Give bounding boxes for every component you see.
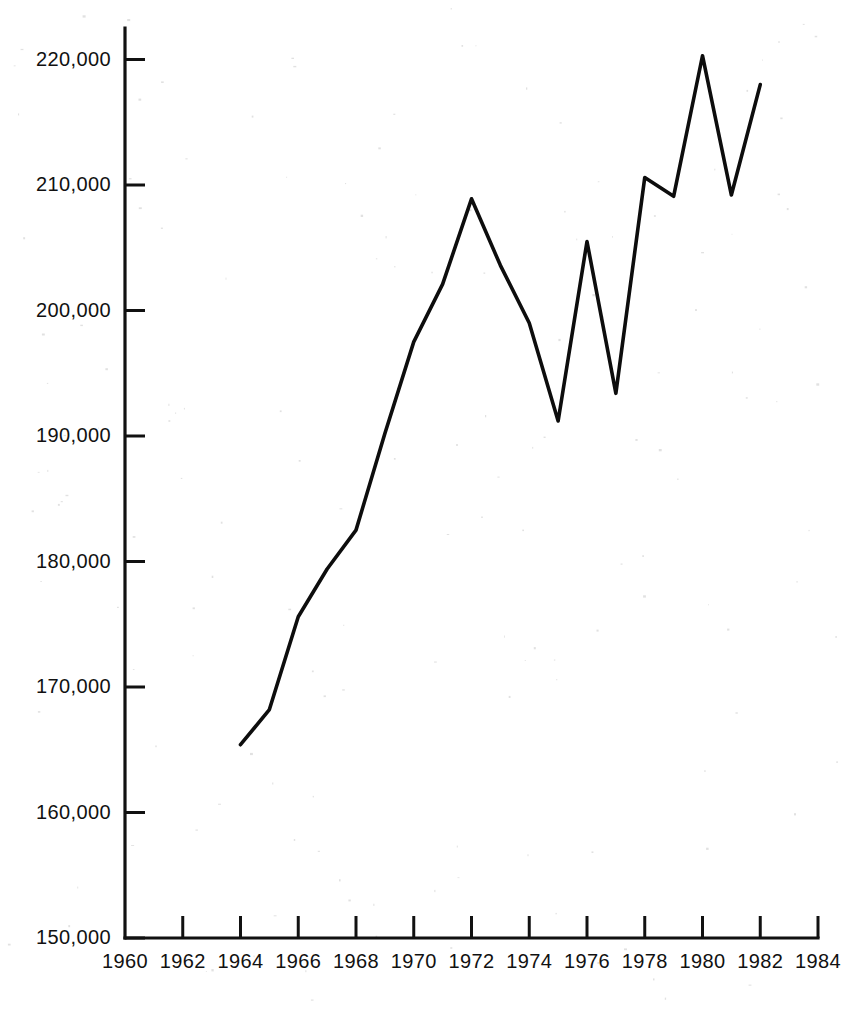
scan-speck	[598, 181, 600, 182]
scan-speck	[708, 604, 709, 605]
scan-speck	[175, 412, 176, 414]
scan-speck	[415, 194, 416, 195]
scan-speck	[66, 495, 69, 496]
scan-speck	[803, 24, 805, 25]
scan-speck	[21, 49, 24, 50]
scan-speck	[532, 447, 533, 449]
scan-speck	[286, 177, 287, 178]
scan-speck	[193, 607, 195, 609]
scan-speck	[83, 15, 86, 17]
scan-speck	[32, 510, 34, 512]
scan-speck	[324, 695, 326, 697]
scan-speck	[797, 581, 798, 583]
scan-speck	[592, 851, 594, 853]
scan-speck	[746, 397, 748, 399]
scan-speck	[348, 900, 350, 902]
scan-speck	[193, 655, 194, 656]
scan-speck	[451, 8, 452, 10]
scan-speck	[695, 309, 697, 311]
scan-speck	[434, 662, 437, 663]
scan-speck	[576, 239, 577, 241]
scan-speck	[38, 472, 40, 473]
x-axis-tick-label: 1968	[333, 950, 379, 972]
scan-speck	[312, 671, 314, 673]
x-axis-tick-label: 1960	[102, 950, 148, 972]
chart-figure: 150,000160,000170,000180,000190,000200,0…	[0, 0, 855, 1010]
scan-speck	[747, 90, 749, 92]
y-axis-tick-label: 180,000	[36, 550, 111, 572]
scan-speck	[252, 116, 254, 118]
scan-speck	[342, 689, 345, 690]
scan-speck	[778, 41, 779, 43]
scan-speck	[621, 564, 623, 565]
scan-speck	[776, 401, 777, 402]
scan-speck	[665, 998, 666, 1000]
scan-speck	[291, 58, 294, 59]
scan-speck	[560, 122, 562, 123]
y-axis-tick-label: 220,000	[36, 48, 111, 70]
scan-speck	[288, 609, 291, 611]
scan-speck	[373, 904, 374, 906]
scan-speck	[274, 915, 277, 916]
scan-speck	[155, 746, 156, 748]
x-axis-tick-label: 1962	[160, 950, 206, 972]
scan-speck	[558, 339, 560, 341]
scan-speck	[250, 753, 253, 755]
y-axis-tick-label: 150,000	[36, 926, 111, 948]
y-axis-tick-label: 200,000	[36, 299, 111, 321]
scan-speck	[654, 215, 656, 217]
scan-speck	[450, 947, 452, 949]
scan-speck	[732, 234, 733, 235]
scan-speck	[522, 530, 524, 532]
scan-speck	[226, 278, 227, 280]
scan-speck	[161, 81, 164, 83]
scan-speck	[42, 334, 45, 336]
scan-speck	[732, 372, 733, 374]
scan-speck	[778, 194, 780, 196]
scan-speck	[117, 607, 119, 608]
x-axis-tick-label: 1982	[737, 950, 783, 972]
scan-speck	[528, 854, 529, 856]
x-axis-tick-label: 1978	[622, 950, 668, 972]
scan-speck	[318, 851, 320, 852]
scan-speck	[612, 236, 613, 238]
scan-speck	[534, 647, 536, 649]
scan-speck	[815, 36, 818, 38]
scan-speck	[184, 408, 185, 410]
scan-speck	[544, 437, 546, 438]
scan-speck	[196, 830, 198, 831]
scan-speck	[376, 258, 377, 259]
scan-speck	[642, 555, 644, 557]
y-axis-tick-label: 160,000	[36, 801, 111, 823]
scan-speck	[431, 272, 432, 274]
scan-speck	[780, 118, 782, 120]
scan-speck	[221, 522, 223, 524]
scan-speck	[313, 796, 314, 798]
scan-speck	[38, 711, 40, 713]
scan-speck	[40, 581, 42, 582]
scan-speck	[759, 329, 761, 330]
scan-speck	[564, 211, 565, 213]
scan-speck	[809, 530, 810, 531]
scan-speck	[597, 630, 599, 632]
scan-speck	[635, 439, 637, 441]
scan-speck	[485, 415, 486, 417]
scan-speck	[386, 236, 387, 238]
scan-speck	[787, 208, 789, 210]
scan-speck	[131, 845, 134, 846]
scan-speck	[835, 636, 836, 638]
scan-speck	[554, 660, 555, 661]
scan-speck	[794, 813, 796, 815]
scan-speck	[836, 761, 838, 762]
scan-speck	[58, 504, 60, 506]
scan-speck	[18, 113, 19, 115]
scan-speck	[497, 477, 499, 478]
scan-speck	[294, 839, 295, 841]
scan-speck	[504, 636, 505, 638]
scan-speck	[133, 536, 136, 538]
scan-speck	[526, 87, 527, 89]
scan-speck	[299, 460, 301, 462]
scan-speck	[706, 848, 709, 850]
x-axis-tick-label: 1984	[795, 950, 841, 972]
scan-speck	[105, 368, 108, 370]
